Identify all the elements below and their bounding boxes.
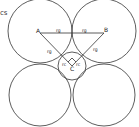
label-rc-left: rc [62,62,67,67]
label-rg-bc: rg [93,47,98,52]
circle-bottom-left [9,64,71,126]
right-angle-marker [68,58,76,62]
circle-packing-diagram: A B C rg rg rg rg rc rc [0,0,139,127]
label-C: C [70,65,74,72]
label-rg-ab-right: rg [82,28,87,33]
label-rg-ac: rg [47,49,52,54]
line-AC [40,33,72,66]
label-rc-right: rc [76,62,81,67]
circle-bottom-right [73,64,135,126]
label-B: B [104,26,108,33]
label-rg-ab-left: rg [56,28,61,33]
